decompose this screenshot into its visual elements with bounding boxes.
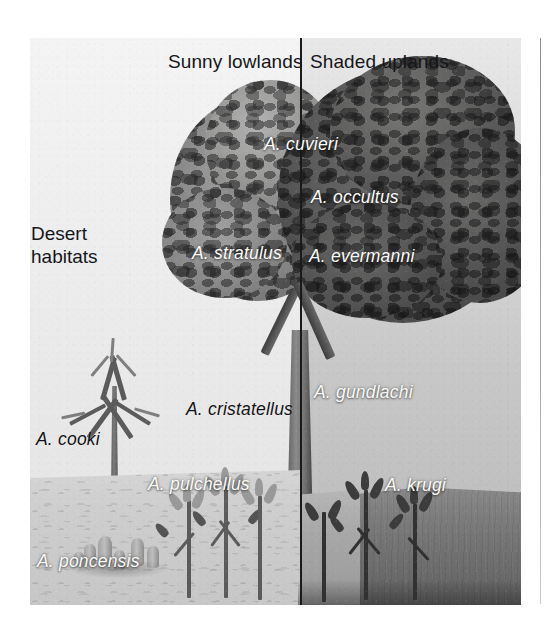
region-title-desert-habitats: Desert habitats [31, 222, 98, 268]
region-title-line2: habitats [31, 245, 98, 268]
species-label-a-occultus: A. occultus [311, 187, 399, 208]
ground-shadow [298, 579, 521, 605]
page-column-rule [540, 38, 541, 604]
shrub-leaf [361, 471, 369, 490]
shrub-stem [364, 490, 368, 600]
shrub-stem [413, 504, 417, 600]
shrub-stem [258, 496, 262, 600]
species-label-a-gundlachi: A. gundlachi [314, 382, 413, 403]
species-label-a-cuvieri: A. cuvieri [264, 134, 338, 155]
header-sunny-lowlands: Sunny lowlands [168, 51, 302, 73]
species-label-a-evermanni: A. evermanni [309, 246, 415, 267]
species-label-a-cristatellus: A. cristatellus [186, 399, 293, 420]
region-title-line1: Desert [31, 222, 98, 245]
habitat-divider-line [300, 38, 302, 605]
species-label-a-cooki: A. cooki [36, 429, 100, 450]
shrub-stem [224, 486, 228, 598]
species-label-a-stratulus: A. stratulus [192, 243, 282, 264]
shrub-leaf [255, 478, 263, 496]
species-label-a-pulchellus: A. pulchellus [148, 474, 250, 495]
shrub-stem [322, 512, 326, 602]
species-label-a-krugi: A. krugi [385, 475, 446, 496]
shrub-stem [187, 500, 191, 598]
species-label-a-poncensis: A. poncensis [37, 551, 140, 572]
anolis-habitat-illustration [30, 38, 521, 605]
header-shaded-uplands: Shaded uplands [310, 51, 449, 73]
